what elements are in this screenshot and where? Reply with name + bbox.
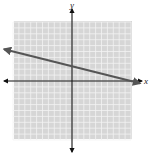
grid-background xyxy=(14,21,132,139)
coordinate-plane: x y xyxy=(0,0,151,156)
y-axis-label: y xyxy=(69,0,74,10)
x-axis-label: x xyxy=(143,76,148,86)
